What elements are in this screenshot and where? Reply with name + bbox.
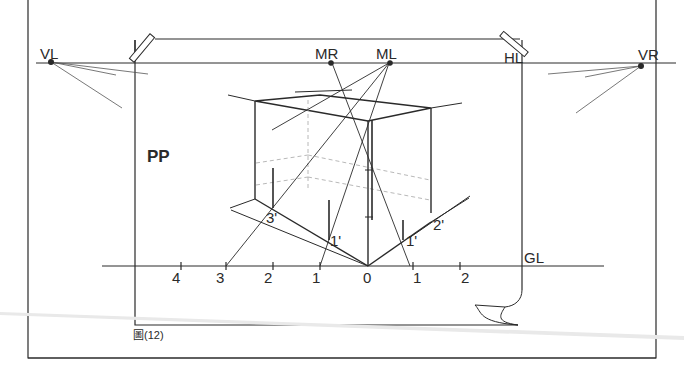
- ground-tick-label: 2: [461, 270, 469, 285]
- tape-left-icon: [129, 34, 154, 62]
- ml-label: ML: [376, 46, 397, 61]
- ground-tick-label: 0: [363, 270, 371, 285]
- outer-frame: [28, 0, 656, 358]
- mark-1-prime-left: 1': [330, 233, 341, 248]
- ground-tick-label: 1: [312, 270, 320, 285]
- hl-label: HL: [504, 50, 523, 65]
- ground-tick-label: 4: [172, 270, 180, 285]
- vr-point: [639, 64, 644, 69]
- vl-label: VL: [40, 46, 58, 61]
- mark-1-prime-right: 1': [406, 233, 417, 248]
- mark-2-prime: 2': [433, 217, 444, 232]
- ground-tick-label: 3: [216, 270, 224, 285]
- gl-label: GL: [524, 250, 544, 265]
- cube-top: [255, 95, 431, 121]
- mr-label: MR: [315, 46, 338, 61]
- page-curl-icon: [475, 290, 522, 325]
- ground-tick-label: 2: [264, 270, 272, 285]
- vr-label: VR: [638, 47, 659, 62]
- figure-caption: 圖(12): [133, 330, 164, 341]
- perspective-diagram: [0, 0, 684, 379]
- mark-3-prime: 3': [266, 210, 277, 225]
- pp-label: PP: [147, 148, 170, 165]
- ground-tick-label: 1: [413, 270, 421, 285]
